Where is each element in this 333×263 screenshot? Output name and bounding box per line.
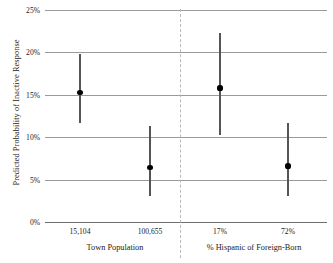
y-tick-label: 15% bbox=[26, 90, 40, 99]
y-tick-label: 25% bbox=[26, 6, 40, 15]
y-tick-label: 0% bbox=[30, 218, 40, 227]
data-marker bbox=[77, 90, 82, 95]
x-tick-label: 72% bbox=[281, 227, 295, 236]
error-bar bbox=[219, 33, 220, 136]
x-tick-label: 17% bbox=[213, 227, 227, 236]
x-axis-group-label: Town Population bbox=[87, 243, 144, 252]
y-tick-label: 20% bbox=[26, 48, 40, 57]
x-tick-label: 100,655 bbox=[138, 227, 163, 236]
error-bar bbox=[79, 54, 80, 123]
gridline-0: 0% bbox=[45, 222, 327, 223]
data-marker bbox=[217, 85, 222, 90]
y-tick-label: 10% bbox=[26, 133, 40, 142]
gridline-20: 20% bbox=[45, 52, 327, 53]
gridline-5: 5% bbox=[45, 180, 327, 181]
x-tick-label: 15,104 bbox=[70, 227, 91, 236]
x-axis-group-label: % Hispanic of Foreign-Born bbox=[207, 243, 302, 252]
gridline-10: 10% bbox=[45, 137, 327, 138]
y-axis-title: Predicted Probability of Inactive Respon… bbox=[12, 13, 21, 213]
plot-area: 0%5%10%15%20%25% bbox=[45, 10, 327, 222]
chart-container: Predicted Probability of Inactive Respon… bbox=[0, 0, 333, 263]
error-bar bbox=[149, 126, 150, 196]
panel-divider bbox=[180, 9, 181, 258]
data-marker bbox=[285, 163, 290, 168]
data-marker bbox=[147, 165, 152, 170]
gridline-15: 15% bbox=[45, 95, 327, 96]
gridline-25: 25% bbox=[45, 10, 327, 11]
y-tick-label: 5% bbox=[30, 175, 40, 184]
error-bar bbox=[287, 123, 288, 196]
